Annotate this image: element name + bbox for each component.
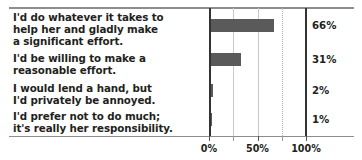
category-label: I'd prefer not to do much; it's really h… bbox=[13, 110, 198, 134]
tick-mark-50 bbox=[258, 136, 259, 141]
bar-segment bbox=[211, 19, 275, 32]
tick-label-50: 50% bbox=[246, 143, 269, 154]
tick-mark-75 bbox=[282, 136, 283, 141]
category-labels: I'd do whatever it takes to help her and… bbox=[13, 9, 198, 135]
category-label: I would lend a hand, but I'd privately b… bbox=[13, 82, 198, 106]
plot-area bbox=[209, 8, 306, 136]
tick-mark-25 bbox=[233, 136, 234, 141]
value-label: 31% bbox=[312, 54, 336, 65]
bar-chart: I'd do whatever it takes to help her and… bbox=[0, 0, 362, 160]
bar-segment bbox=[211, 84, 213, 97]
bar-segment bbox=[211, 113, 213, 126]
tick-label-0: 0% bbox=[201, 143, 217, 154]
value-label: 1% bbox=[312, 114, 329, 125]
tick-label-100: 100% bbox=[291, 143, 321, 154]
gridline-75 bbox=[282, 8, 283, 136]
tick-mark-0 bbox=[209, 136, 210, 141]
category-label: I'd do whatever it takes to help her and… bbox=[13, 11, 198, 48]
tick-mark-100 bbox=[306, 136, 307, 141]
axis-tick-labels: 0% 50% 100% bbox=[209, 143, 329, 157]
value-label: 2% bbox=[312, 85, 329, 96]
axis-line-hundred bbox=[305, 8, 307, 136]
value-label: 66% bbox=[312, 20, 336, 31]
axis-ticks bbox=[209, 136, 306, 142]
value-labels: 66% 31% 2% 1% bbox=[312, 8, 356, 136]
category-label: I'd be willing to make a reasonable effo… bbox=[13, 52, 198, 76]
bar-segment bbox=[211, 53, 241, 66]
